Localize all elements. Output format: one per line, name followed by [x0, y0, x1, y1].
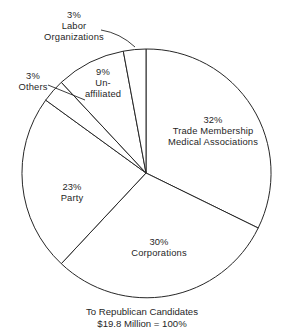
chart-caption: To Republican Candidates $19.8 Million =…	[0, 306, 284, 330]
slice-label-party: 23% Party	[42, 181, 102, 203]
slice-name-trade-line1: Trade Membership	[150, 125, 276, 136]
slice-label-labor-organizations: 3% Labor Organizations	[18, 9, 130, 42]
slice-name-trade-line2: Medical Associations	[150, 136, 276, 147]
slice-name-others: Others	[2, 81, 64, 92]
caption-line-2: $19.8 Million = 100%	[0, 318, 284, 330]
caption-line-1: To Republican Candidates	[0, 306, 284, 318]
slice-name-unaffiliated-line2: affiliated	[72, 88, 134, 99]
slice-name-corporations: Corporations	[104, 247, 214, 258]
pie-chart: 32% Trade Membership Medical Association…	[0, 0, 284, 333]
slice-name-labor-line2: Organizations	[18, 31, 130, 42]
slice-label-others: 3% Others	[2, 70, 64, 92]
slice-label-trade-membership-medical-associations: 32% Trade Membership Medical Association…	[150, 114, 276, 147]
slice-name-unaffiliated-line1: Un-	[72, 77, 134, 88]
slice-percent-party: 23%	[42, 181, 102, 192]
slice-percent-corporations: 30%	[104, 236, 214, 247]
slice-name-labor-line1: Labor	[18, 20, 130, 31]
slice-label-corporations: 30% Corporations	[104, 236, 214, 258]
slice-name-party: Party	[42, 192, 102, 203]
slice-percent-unaffiliated: 9%	[72, 66, 134, 77]
slice-percent-labor: 3%	[18, 9, 130, 20]
pie-chart-graphic	[0, 0, 284, 333]
slice-percent-trade: 32%	[150, 114, 276, 125]
slice-percent-others: 3%	[2, 70, 64, 81]
slice-label-unaffiliated: 9% Un- affiliated	[72, 66, 134, 99]
